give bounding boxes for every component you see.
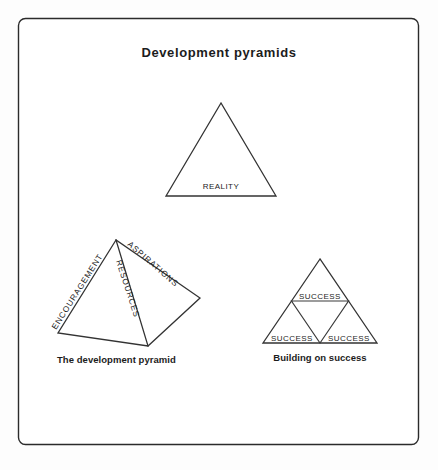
figure-border [19,19,419,445]
success-label-bottom-left: SUCCESS [271,334,313,343]
page-title: Development pyramids [141,45,296,60]
success-label-bottom-right: SUCCESS [328,334,370,343]
building-on-success-caption: Building on success [273,352,366,363]
development-pyramids-figure: Development pyramids REALITY ENCOURAGEME… [0,0,438,470]
reality-label: REALITY [203,182,240,191]
development-pyramid-caption: The development pyramid [57,354,176,365]
figure-root: Development pyramids REALITY ENCOURAGEME… [0,0,438,470]
success-label-top: SUCCESS [299,292,341,301]
